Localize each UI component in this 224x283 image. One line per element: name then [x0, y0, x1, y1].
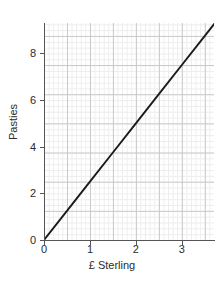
x-tick-label: 1 — [80, 243, 100, 256]
y-axis-label: Pasties — [7, 104, 19, 140]
y-tick-label: 8 — [20, 48, 36, 59]
y-axis-label-container: Pasties — [3, 72, 21, 172]
plot-area — [44, 23, 214, 240]
y-tick-label: 6 — [20, 95, 36, 106]
x-axis-label: £ Sterling — [0, 259, 224, 271]
y-tick-mark — [40, 147, 44, 148]
chart-figure: 0123 02468 £ Sterling Pasties — [0, 0, 224, 283]
y-tick-label: 0 — [20, 235, 36, 246]
y-tick-mark — [40, 100, 44, 101]
x-tick-label: 0 — [34, 243, 54, 256]
y-tick-mark — [40, 53, 44, 54]
y-tick-mark — [40, 193, 44, 194]
x-tick-label: 3 — [172, 243, 192, 256]
y-tick-label: 4 — [20, 142, 36, 153]
y-tick-label: 2 — [20, 188, 36, 199]
y-axis-line — [44, 23, 45, 241]
data-series-line — [44, 23, 214, 240]
y-tick-mark — [40, 240, 44, 241]
x-axis-line — [44, 240, 215, 241]
x-tick-label: 2 — [126, 243, 146, 256]
